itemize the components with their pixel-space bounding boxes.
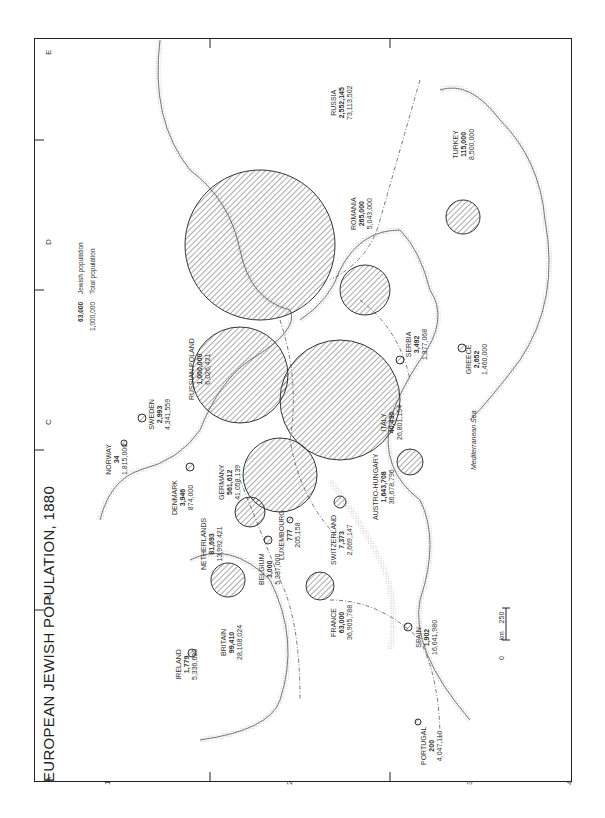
label-portugal: PORTUGAL2004,047,110 (420, 727, 444, 765)
legend-jewish-value: 63,000 (75, 302, 87, 332)
label-greece: GREECE2,6521,460,000 (465, 344, 489, 375)
circle-spain (404, 623, 412, 631)
legend-jewish-label: Jewish population (77, 242, 84, 294)
grid-label-3: 3 (465, 781, 474, 785)
circle-sweden (138, 414, 146, 422)
label-norway: NORWAY341,815,000 (105, 444, 129, 475)
circle-serbia (396, 356, 404, 364)
label-sweden: SWEDEN2,9934,341,559 (148, 399, 172, 430)
grid-label-1: 1 (103, 781, 112, 785)
grid-label-e: E (44, 50, 53, 55)
label-luxembourg: LUXEMBOURG777205,158 (278, 510, 302, 560)
label-france: FRANCE63,00036,905,788 (330, 605, 354, 640)
label-britain: BRITAIN99,41028,108,024 (220, 625, 244, 660)
grid-label-2: 2 (285, 781, 294, 785)
scale-label: 0 km 250 (498, 612, 506, 660)
label-spain: SPAIN1,90216,641,980 (415, 620, 439, 655)
grid-label-c: C (44, 419, 53, 425)
label-denmark: DENMARK3,946874,000 (171, 480, 195, 515)
legend-total-value: 1,000,000 (87, 302, 99, 332)
label-germany: GERMANY561,61241,058,139 (218, 465, 242, 500)
legend: 63,000Jewish population 1,000,000Total p… (75, 242, 99, 332)
circle-austro-hungary (280, 340, 400, 460)
map-title: EUROPEAN JEWISH POPULATION, 1880 (40, 486, 57, 782)
circle-romania (340, 265, 390, 315)
circle-portugal (415, 719, 421, 725)
label-russian-poland: RUSSIAN POLAND1,000,0006,026,421 (188, 338, 212, 400)
label-russia: RUSSIA2,552,14573,113,502 (330, 85, 354, 120)
label-ireland: IRELAND1,7795,336,630 (175, 649, 199, 680)
label-turkey: TURKEY115,0008,500,000 (452, 129, 476, 160)
grid-label-d: D (44, 239, 53, 245)
circle-turkey (446, 200, 480, 234)
circle-france (306, 572, 334, 600)
label-romania: ROMANIA265,0005,043,000 (350, 197, 374, 230)
circle-netherlands (235, 497, 265, 527)
circle-russia (185, 170, 335, 320)
circle-belgium (264, 536, 272, 544)
label-netherlands: NETHERLANDS81,69313,992,421 (200, 518, 224, 570)
label-austro-hungary: AUSTRO-HUNGARY1,643,70836,678,796 (372, 454, 396, 520)
legend-total-label: Total population (89, 248, 96, 294)
label-switzerland: SWITZERLAND7,3732,669,147 (330, 515, 354, 565)
sea-label: Mediterranean Sea (470, 410, 477, 470)
grid-label-4: 4 (565, 781, 574, 785)
circle-switzerland (334, 496, 346, 508)
label-italy: ITALY40,43026,801,154 (380, 405, 404, 440)
circle-denmark (186, 463, 194, 471)
circle-italy (397, 449, 423, 475)
grid-label-b: B (44, 595, 53, 600)
map-canvas (0, 0, 605, 818)
grid-label-a: A (44, 777, 53, 782)
label-serbia: SERBIA3,4921,377,068 (405, 329, 429, 360)
